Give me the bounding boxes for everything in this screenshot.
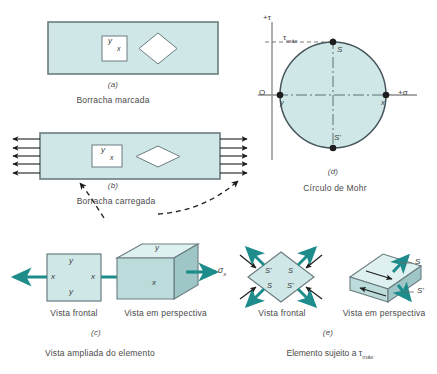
panel-e-letter: (e) [308, 328, 348, 337]
panel-a-caption: Borracha marcada [53, 95, 173, 105]
panel-d-tau-max-label: τmáx [283, 33, 298, 44]
panel-c-perspective-graphic [117, 244, 216, 299]
panel-e-front-view-label: Vista frontal [232, 308, 332, 318]
figure-canvas: y x (a) Borracha marcada y x (b) Borrach… [0, 0, 437, 374]
panel-c-caption: Vista ampliada do elemento [30, 348, 170, 358]
panel-a-square-label-y: y [108, 36, 112, 45]
panel-d-point-x-label: x [381, 98, 385, 107]
panel-e-front-graphic [240, 248, 322, 306]
panel-e-diamond-label-br: S' [287, 281, 293, 290]
shear-arrow-br [306, 287, 322, 299]
panel-d-caption: Círculo de Mohr [285, 183, 385, 193]
panel-d-tau-axis-label: +τ [263, 13, 271, 22]
panel-a-graphic [48, 22, 218, 74]
shear-arrow-bl [240, 287, 256, 299]
panel-d-letter: (d) [313, 167, 353, 176]
shear-arrow-tr [306, 255, 322, 268]
panel-e-perspective-view-label: Vista em perspectiva [330, 308, 437, 318]
panel-c-sigma-label: σx [218, 265, 226, 277]
panel-b-square-label-y: y [101, 145, 105, 154]
panel-e-persp-label-lower: S' [417, 286, 424, 295]
load-arrows-right [220, 139, 247, 173]
panel-c-letter: (c) [76, 328, 116, 337]
panel-e-persp-label-upper: S [415, 257, 420, 266]
panel-c-label-right-x: x [91, 272, 95, 281]
load-arrows-left [13, 139, 40, 173]
panel-c-persp-label-x: x [152, 278, 156, 287]
panel-d-point-y-label: y [280, 98, 284, 107]
panel-c-perspective-view-label: Vista em perspectiva [108, 308, 223, 318]
panel-e-diamond-label-tr: S [288, 266, 293, 275]
panel-b-letter: (b) [93, 181, 133, 190]
panel-c-persp-label-y: y [155, 243, 159, 252]
panel-e-diamond-label-bl: S [267, 281, 272, 290]
panel-b-square-label-x: x [110, 154, 114, 161]
panel-d-origin-label: O [259, 88, 265, 97]
deformed-square [92, 145, 122, 167]
panel-c-label-bottom-y: y [69, 287, 73, 296]
panel-c-front-graphic [14, 254, 134, 301]
panel-d-point-s-prime-label: S' [334, 133, 341, 142]
rubber-bar-unloaded [48, 22, 218, 74]
panel-d-sigma-axis-label: +σ [398, 88, 408, 97]
panel-d-point-s-label: S [337, 45, 342, 54]
marked-square [102, 36, 127, 61]
cube-front-face [117, 258, 174, 299]
panel-e-caption: Elemento sujeito a τmáx [265, 348, 395, 360]
rubber-bar-loaded [40, 133, 220, 179]
shear-arrow-tl [240, 255, 256, 268]
panel-b-graphic [13, 133, 247, 179]
panel-b-caption: Borracha carregada [51, 196, 181, 206]
panel-a-square-label-x: x [117, 45, 121, 52]
point-s-prime [330, 145, 337, 152]
panel-e-diamond-label-tl: S' [265, 266, 271, 275]
point-s [330, 39, 337, 46]
panel-c-label-top-y: y [69, 256, 73, 265]
panel-e-perspective-graphic [350, 254, 421, 302]
panel-a-letter: (a) [93, 80, 133, 89]
panel-c-label-left-x: x [51, 272, 55, 281]
